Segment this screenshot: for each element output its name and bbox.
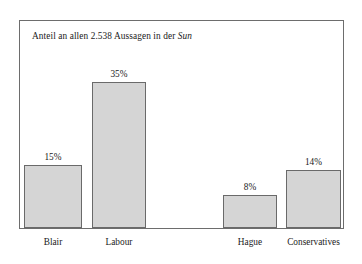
- category-label: Hague: [223, 236, 277, 248]
- bar-group: 15%: [24, 21, 82, 228]
- bar: [223, 195, 277, 228]
- bar: [286, 170, 341, 228]
- bar-group: 8%: [223, 21, 277, 228]
- bar-value-label: 14%: [286, 157, 341, 168]
- category-label: Labour: [92, 236, 146, 248]
- plot-area: 15%35%8%14%: [20, 21, 343, 228]
- bar: [24, 165, 82, 228]
- bar-value-label: 15%: [24, 152, 82, 163]
- bar-group: 14%: [286, 21, 341, 228]
- bar-group: 35%: [92, 21, 146, 228]
- bar-value-label: 8%: [223, 182, 277, 193]
- bar-chart-figure: Anteil an allen 2.538 Aussagen in der Su…: [0, 0, 362, 264]
- plot-frame: Anteil an allen 2.538 Aussagen in der Su…: [19, 20, 344, 229]
- bar: [92, 82, 146, 228]
- category-label: Blair: [24, 236, 82, 248]
- category-label: Conservatives: [286, 236, 341, 248]
- bar-value-label: 35%: [92, 69, 146, 80]
